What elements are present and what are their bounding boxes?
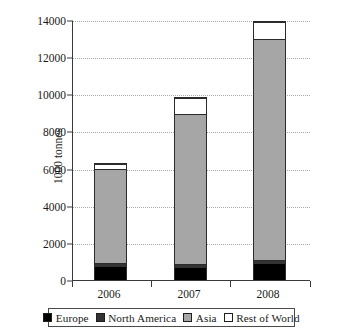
bar-segment-rest-of-world (254, 22, 285, 39)
bar-segment-asia (95, 169, 126, 263)
y-axis-tick-label: 0 (0, 275, 66, 287)
bar-segment-rest-of-world (175, 98, 206, 114)
legend-swatch-icon (43, 313, 52, 322)
legend-label: Europe (56, 312, 89, 324)
x-axis-tick-label-2006: 2006 (98, 288, 121, 300)
y-axis-title: 1000 tonnes (52, 76, 64, 236)
stacked-bar-chart: 02000400060008000100001200014000 1000 to… (0, 0, 339, 336)
bar-segment-europe (95, 267, 126, 280)
legend-swatch-icon (224, 313, 233, 322)
bar-2006 (94, 163, 127, 280)
legend-swatch-icon (96, 313, 105, 322)
bar-segment-europe (254, 264, 285, 280)
bar-segment-europe (175, 268, 206, 280)
x-axis-tick-label-2008: 2008 (257, 288, 280, 300)
x-axis-tick-mark (72, 281, 73, 287)
x-axis-tick-mark (151, 281, 152, 287)
bar-segment-asia (254, 39, 285, 260)
bar-2007 (174, 97, 207, 280)
x-axis-tick-label-2007: 2007 (178, 288, 201, 300)
bar-2008 (253, 21, 286, 280)
legend-swatch-icon (183, 313, 192, 322)
legend-label: Rest of World (236, 312, 300, 324)
legend-item-rest-of-world: Rest of World (224, 312, 300, 324)
y-axis-tick-label: 14000 (0, 15, 66, 27)
x-axis-tick-mark (310, 281, 311, 287)
legend-label: Asia (196, 312, 217, 324)
y-axis-tick-label: 12000 (0, 52, 66, 64)
legend: EuropeNorth AmericaAsiaRest of World (48, 308, 295, 327)
legend-item-europe: Europe (43, 312, 88, 324)
y-axis-tick-label: 2000 (0, 238, 66, 250)
legend-item-north-america: North America (96, 312, 177, 324)
x-axis-tick-mark (230, 281, 231, 287)
legend-item-asia: Asia (183, 312, 216, 324)
bar-segment-asia (175, 114, 206, 265)
plot-area (72, 21, 310, 281)
legend-label: North America (108, 312, 176, 324)
